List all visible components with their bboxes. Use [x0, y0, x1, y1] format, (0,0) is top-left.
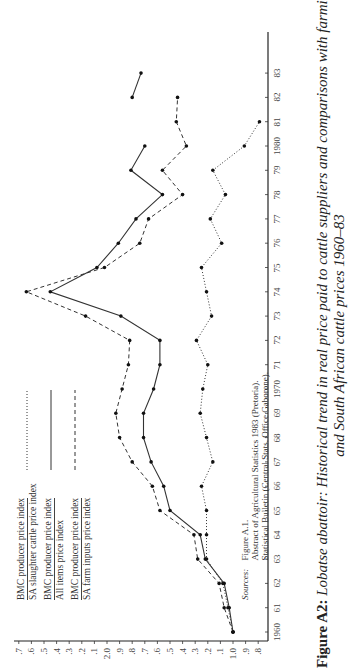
value-tick-label: .2	[203, 648, 213, 668]
year-tick-label: 69	[272, 403, 282, 423]
value-tick-label: .6	[152, 648, 162, 668]
data-point	[118, 436, 122, 440]
year-tick-label: 73	[272, 306, 282, 326]
data-point	[205, 290, 209, 294]
data-point	[168, 509, 172, 513]
data-point	[203, 557, 207, 561]
data-point	[151, 484, 155, 488]
legend-denominator: All items price index	[55, 520, 66, 600]
year-tick-label: 68	[272, 428, 282, 448]
value-tick-label: .6	[26, 648, 36, 668]
legend-item-dashed: BMC producer price index SA farm inputs …	[70, 380, 93, 600]
data-point	[130, 96, 134, 100]
data-point	[198, 412, 202, 416]
year-tick-label: 1980	[272, 136, 282, 156]
value-tick-label: .9	[241, 648, 251, 668]
data-point	[192, 533, 196, 537]
data-point	[95, 266, 99, 270]
year-tick-label: 74	[272, 282, 282, 302]
source-line: Figure A.1.	[240, 520, 250, 561]
data-point	[181, 193, 185, 197]
year-tick-label: 79	[272, 160, 282, 180]
year-tick-label: 61	[272, 598, 282, 618]
data-point	[227, 606, 231, 610]
data-point	[158, 339, 162, 343]
value-tick-label: .7	[140, 648, 150, 668]
year-tick-label: 82	[272, 87, 282, 107]
year-tick-label: 62	[272, 573, 282, 593]
year-tick-label: 66	[272, 476, 282, 496]
legend-item-solid: BMC producer price index All items price…	[43, 380, 66, 600]
data-point	[161, 169, 165, 173]
data-point	[138, 241, 142, 245]
value-tick-label: .9	[115, 648, 125, 668]
year-tick-label: 63	[272, 549, 282, 569]
data-point	[205, 509, 209, 513]
year-tick-label: 1960	[272, 622, 282, 642]
data-point	[220, 241, 224, 245]
series-line-solid	[132, 73, 141, 97]
value-tick-label: 2.0	[102, 648, 112, 668]
data-point	[84, 314, 88, 318]
data-point	[142, 436, 146, 440]
data-point	[200, 266, 204, 270]
value-tick-label: .8	[253, 648, 263, 668]
year-tick-label: 81	[272, 112, 282, 132]
data-point	[243, 144, 247, 148]
data-point	[114, 412, 118, 416]
legend-denominator: SA slaughter cattle price index	[28, 483, 39, 600]
source-line: Statistical Bulletin (Central Stats. Off…	[260, 372, 270, 561]
data-point	[205, 533, 209, 537]
data-point	[147, 217, 151, 221]
data-point	[128, 339, 132, 343]
sources-label: Sources:	[240, 569, 250, 600]
data-point	[149, 460, 153, 464]
data-point	[211, 169, 215, 173]
value-tick-label: .5	[39, 648, 49, 668]
value-tick-label: .3	[64, 648, 74, 668]
data-point	[158, 363, 162, 367]
value-tick-label: .2	[77, 648, 87, 668]
data-point	[258, 120, 262, 124]
legend-denominator: SA farm inputs price index	[82, 498, 93, 600]
data-point	[209, 217, 213, 221]
data-point	[201, 387, 205, 391]
data-point	[198, 533, 202, 537]
data-point	[161, 193, 165, 197]
data-point	[120, 387, 124, 391]
year-tick-label: 83	[272, 63, 282, 83]
value-tick-label: .5	[165, 648, 175, 668]
caption-line2: and South African cattle prices 1960–83	[331, 214, 347, 457]
value-tick-label: 1.0	[228, 648, 238, 668]
data-point	[195, 339, 199, 343]
year-tick-label: 65	[272, 501, 282, 521]
data-point	[200, 484, 204, 488]
legend-item-dotted: BMC producer price index SA slaughter ca…	[16, 380, 39, 600]
data-point	[196, 557, 200, 561]
data-point	[130, 460, 134, 464]
year-tick-label: 75	[272, 258, 282, 278]
data-point	[129, 169, 133, 173]
data-point	[205, 436, 209, 440]
year-tick-label: 77	[272, 209, 282, 229]
data-point	[117, 241, 121, 245]
year-tick-label: 67	[272, 452, 282, 472]
data-point	[25, 290, 29, 294]
data-point	[222, 606, 226, 610]
data-point	[206, 363, 210, 367]
data-point	[49, 290, 53, 294]
figure-caption: Figure A2: Lobatse abattoir: Historical …	[314, 3, 348, 668]
value-tick-label: .4	[178, 648, 188, 668]
data-point	[210, 314, 214, 318]
year-tick-label: 71	[272, 355, 282, 375]
data-point	[139, 71, 143, 75]
data-point	[127, 363, 131, 367]
data-point	[119, 314, 123, 318]
sources-note: Sources: Figure A.1. Abstract of Agricul…	[240, 320, 270, 600]
data-point	[231, 630, 235, 634]
data-point	[152, 387, 156, 391]
data-point	[142, 412, 146, 416]
value-tick-label: .8	[127, 648, 137, 668]
legend-numerator: BMC producer price index	[70, 498, 82, 600]
value-tick-label: .1	[215, 648, 225, 668]
